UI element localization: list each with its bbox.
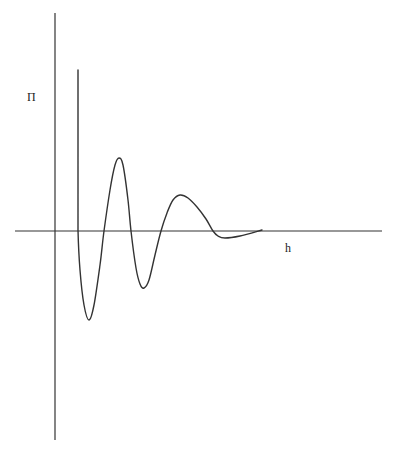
x-axis-label: h [285,241,291,255]
y-axis-label: Π [27,90,36,104]
chart-canvas: Π h [0,0,394,453]
pi-of-h-curve [78,70,262,320]
